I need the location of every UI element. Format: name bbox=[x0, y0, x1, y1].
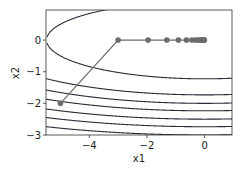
trajectory-point bbox=[164, 37, 170, 43]
x-tick-label: 0 bbox=[201, 140, 207, 151]
trajectory-point bbox=[145, 37, 151, 43]
y-tick-label: −1 bbox=[26, 66, 41, 77]
trajectory-point bbox=[184, 37, 190, 43]
trajectory-point bbox=[115, 37, 121, 43]
y-tick-label: 0 bbox=[35, 35, 41, 46]
y-axis-label: x2 bbox=[10, 67, 21, 79]
y-tick-label: −3 bbox=[26, 130, 41, 141]
trajectory-point bbox=[176, 37, 182, 43]
x-tick-label: −4 bbox=[82, 140, 97, 151]
x-axis-label: x1 bbox=[133, 153, 145, 164]
contour-chart: −4−20 0−1−2−3 x1 x2 bbox=[0, 0, 244, 174]
trajectory-point bbox=[202, 37, 208, 43]
y-tick-label: −2 bbox=[26, 98, 41, 109]
x-tick-label: −2 bbox=[140, 140, 155, 151]
trajectory-point bbox=[58, 101, 64, 107]
